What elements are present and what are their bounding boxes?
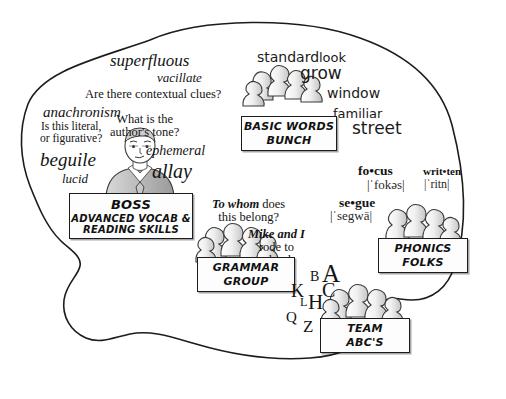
- phonics-ipa-focus: |ˈfokəs|: [367, 178, 405, 192]
- phonics-word-written: writ•ten: [423, 166, 461, 178]
- abc-letter-h: H: [308, 291, 323, 313]
- vocab-question-literal-line1: Is this literal,: [40, 120, 102, 132]
- sign-boss-subtitle-line2: READING SKILLS: [71, 224, 190, 236]
- grammar-example-1-rest: does: [259, 197, 285, 211]
- sign-team-abcs: TEAM ABC'S: [320, 318, 410, 353]
- sign-basic-line1: BASIC WORDS: [244, 120, 334, 133]
- vocab-word-ephemeral: ephemeral: [146, 144, 205, 159]
- vocab-word-vacillate: vacillate: [157, 71, 202, 85]
- sign-phonics-folks: PHONICS FOLKS: [378, 238, 468, 273]
- vocab-word-lucid: lucid: [62, 172, 88, 186]
- basic-word-window: window: [327, 86, 380, 101]
- abc-letter-z: Z: [303, 318, 313, 336]
- abc-letter-c: C: [322, 280, 335, 301]
- vocab-word-beguile: beguile: [40, 150, 96, 170]
- sign-phonics-line1: PHONICS: [395, 242, 452, 255]
- sign-grammar-line2: GROUP: [224, 275, 269, 288]
- grammar-example-1-bold: To whom: [212, 197, 259, 211]
- phonics-ipa-segue: |ˈsegwā|: [330, 209, 372, 223]
- grammar-example-1-line2: this belong?: [212, 211, 285, 224]
- sign-abc-line1: TEAM: [347, 322, 382, 335]
- phonics-ipa-written: |ˈritn|: [424, 178, 449, 191]
- abc-letter-b: B: [310, 270, 319, 285]
- grammar-example-1: To whom does this belong?: [212, 198, 285, 224]
- vocab-question-literal-line2: or figurative?: [40, 132, 102, 144]
- vocab-question-literal-figurative: Is this literal, or figurative?: [40, 120, 102, 144]
- sign-grammar-line1: GRAMMAR: [213, 261, 279, 274]
- vocab-question-contextual-clues: Are there contextual clues?: [85, 88, 221, 101]
- sign-basic-words-bunch: BASIC WORDS BUNCH: [241, 116, 337, 151]
- grammar-example-2-bold: Mike and I: [248, 227, 305, 241]
- sign-boss-subtitle-line1: ADVANCED VOCAB &: [71, 213, 190, 225]
- sign-boss: BOSS ADVANCED VOCAB & READING SKILLS: [69, 193, 193, 239]
- basic-word-street: street: [352, 120, 402, 138]
- vocab-question-tone-line2: author's tone?: [110, 126, 179, 139]
- sign-boss-title: BOSS: [111, 197, 151, 212]
- sign-abc-line2: ABC'S: [346, 336, 383, 349]
- sign-basic-line2: BUNCH: [267, 134, 312, 147]
- abc-letter-q: Q: [286, 310, 297, 326]
- abc-letter-l: L: [300, 296, 307, 309]
- sign-boss-subtitle: ADVANCED VOCAB & READING SKILLS: [71, 213, 190, 236]
- vocab-question-authors-tone: What is the author's tone?: [110, 113, 179, 139]
- sign-phonics-line2: FOLKS: [402, 256, 443, 269]
- brain-diagram: superfluous vacillate Are there contextu…: [0, 0, 506, 399]
- vocab-word-allay: allay: [152, 161, 192, 182]
- basic-word-grow: grow: [300, 65, 342, 83]
- sign-grammar-group: GRAMMAR GROUP: [197, 257, 295, 292]
- vocab-word-superfluous: superfluous: [110, 52, 189, 70]
